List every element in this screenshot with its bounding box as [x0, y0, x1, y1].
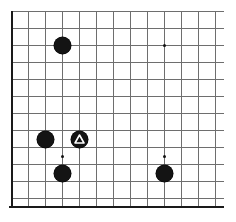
- stone-black-2[interactable]: [37, 131, 54, 148]
- stone-black-1[interactable]: [54, 37, 71, 54]
- triangle-mark-icon: [71, 131, 88, 148]
- stones-layer: [0, 0, 236, 222]
- stone-black-4[interactable]: [54, 165, 71, 182]
- stone-black-5[interactable]: [156, 165, 173, 182]
- stone-black-3[interactable]: [71, 131, 88, 148]
- go-board-diagram: [0, 0, 236, 222]
